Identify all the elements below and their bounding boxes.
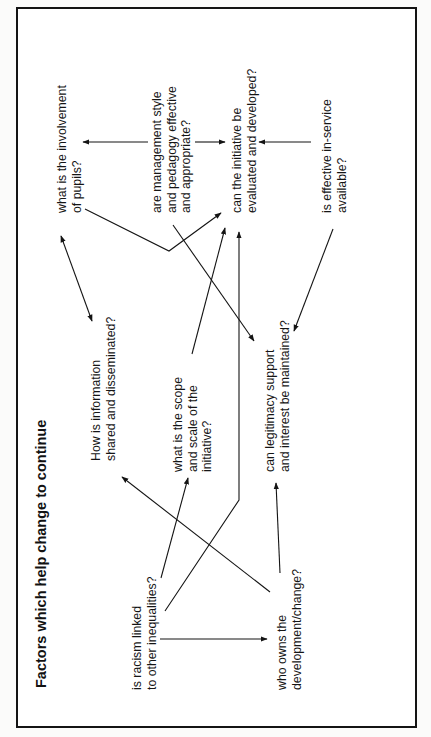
node-line: can the initiative be [230, 69, 245, 213]
node-line: evaluated and developed? [245, 69, 260, 213]
node-line: and interest be maintained? [278, 320, 293, 472]
node-initiative-evaluated: can the initiative be evaluated and deve… [230, 69, 259, 213]
node-pupils-involvement: what is the involvement of pupils? [55, 85, 84, 213]
node-line: who owns the [275, 569, 290, 690]
node-line: can legitimacy support [263, 320, 278, 472]
node-information-shared: How is information shared and disseminat… [89, 317, 118, 461]
node-line: How is information [89, 317, 104, 461]
node-line: available? [335, 99, 350, 213]
node-ownership-change: who owns the development/change? [275, 569, 304, 690]
node-racism-inequalities: is racism linked to other inequalities? [130, 577, 159, 690]
node-line: and scale of the [186, 377, 201, 472]
node-line: of pupils? [70, 85, 85, 213]
node-line: what is the scope [171, 377, 186, 472]
diagram-title: Factors which help change to continue [33, 420, 50, 688]
node-legitimacy-support: can legitimacy support and interest be m… [263, 320, 292, 472]
node-inservice-available: is effective in-service available? [320, 99, 349, 213]
node-line: is effective in-service [320, 99, 335, 213]
node-line: development/change? [290, 569, 305, 690]
node-management-style: are management style and pedagogy effect… [150, 86, 194, 213]
node-scope-scale: what is the scope and scale of the initi… [171, 377, 215, 472]
node-line: initiative? [200, 377, 215, 472]
node-line: to other inequalities? [145, 577, 160, 690]
node-line: is racism linked [130, 577, 145, 690]
node-line: and appropriate? [179, 86, 194, 213]
node-line: and pedagogy effective [165, 86, 180, 213]
page: Factors which help change to continue wh… [0, 0, 431, 737]
node-line: what is the involvement [55, 85, 70, 213]
node-line: shared and disseminated? [104, 317, 119, 461]
node-line: are management style [150, 86, 165, 213]
